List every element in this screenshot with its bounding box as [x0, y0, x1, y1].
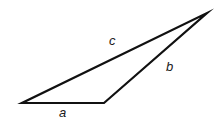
triangle-diagram: a b c — [0, 0, 216, 125]
side-label-a: a — [59, 106, 66, 119]
triangle-shape — [0, 0, 216, 125]
side-label-c: c — [109, 34, 116, 47]
side-label-b: b — [166, 60, 173, 73]
triangle-outline — [22, 13, 207, 103]
